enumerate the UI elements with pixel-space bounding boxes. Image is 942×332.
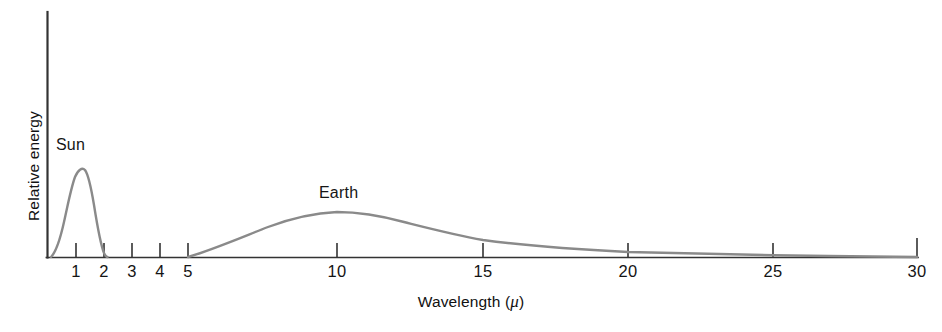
x-tick-label-3: 3 bbox=[127, 262, 136, 281]
series-curve-earth bbox=[188, 212, 917, 257]
chart-figure: Relative energy Sun Earth 1 2 3 4 5 10 1… bbox=[0, 0, 942, 332]
x-tick-label-30: 30 bbox=[908, 262, 927, 281]
x-tick-label-20: 20 bbox=[619, 262, 638, 281]
x-axis-label: Wavelength (μ) bbox=[0, 293, 942, 310]
mu-symbol: μ bbox=[510, 292, 519, 311]
series-label-sun: Sun bbox=[56, 137, 85, 153]
x-tick-label-4: 4 bbox=[155, 262, 164, 281]
x-tick-label-1: 1 bbox=[71, 262, 80, 281]
series-curve-sun bbox=[51, 169, 108, 257]
series-label-earth: Earth bbox=[319, 185, 358, 201]
x-tick-label-15: 15 bbox=[474, 262, 493, 281]
x-tick-label-5: 5 bbox=[183, 262, 192, 281]
x-tick-label-10: 10 bbox=[328, 262, 347, 281]
x-tick-label-25: 25 bbox=[764, 262, 783, 281]
y-axis-label: Relative energy bbox=[26, 0, 52, 332]
x-axis-label-unit-group: (μ) bbox=[505, 293, 524, 310]
x-axis-label-text: Wavelength bbox=[418, 293, 501, 310]
x-tick-label-2: 2 bbox=[99, 262, 108, 281]
chart-plot-area bbox=[0, 0, 942, 332]
